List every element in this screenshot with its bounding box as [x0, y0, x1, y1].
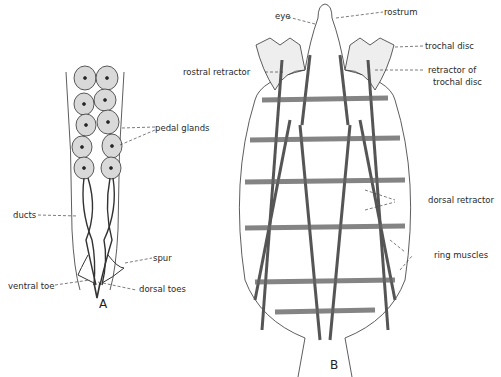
label-trochal-disc: trochal disc — [425, 41, 474, 51]
label-dorsal-toes: dorsal toes — [139, 284, 186, 294]
figure-drawing — [0, 0, 501, 377]
label-spur: spur — [153, 253, 172, 263]
label-eye: eye — [275, 11, 291, 21]
panel-letter-b: B — [330, 358, 338, 372]
label-pedal-glands: pedal glands — [155, 123, 209, 133]
label-ventral-toe: ventral toe — [8, 281, 55, 291]
label-dorsal-retractor: dorsal retractor — [428, 195, 494, 205]
panel-b-body — [239, 4, 410, 377]
label-ducts: ducts — [13, 210, 36, 220]
panel-letter-a: A — [99, 297, 107, 311]
label-retractor-of-trochal-disc-line2: trochal disc — [433, 77, 482, 87]
label-ring-muscles: ring muscles — [434, 250, 488, 260]
panel-a-foot — [66, 66, 124, 298]
label-retractor-of-trochal-disc-line1: retractor of — [428, 65, 476, 75]
label-rostral-retractor: rostral retractor — [183, 67, 250, 77]
label-rostrum: rostrum — [384, 7, 417, 17]
